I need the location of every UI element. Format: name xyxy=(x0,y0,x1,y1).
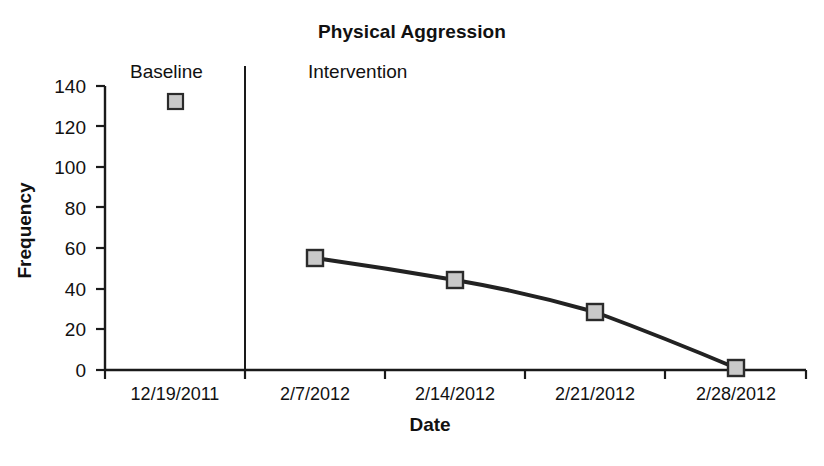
x-tick-label: 2/28/2012 xyxy=(656,385,816,403)
y-tick-label: 60 xyxy=(26,239,86,258)
data-point-marker-baseline xyxy=(168,94,183,109)
data-point-marker xyxy=(728,360,744,376)
y-tick-label: 20 xyxy=(26,320,86,339)
x-tick-marks xyxy=(105,370,806,379)
y-tick-label: 0 xyxy=(26,361,86,380)
x-tick-label: 2/7/2012 xyxy=(235,385,395,403)
phase-label-baseline: Baseline xyxy=(130,62,203,81)
x-tick-label: 2/21/2012 xyxy=(515,385,675,403)
y-tick-label: 40 xyxy=(26,280,86,299)
y-tick-label: 140 xyxy=(26,77,86,96)
intervention-series-line xyxy=(315,258,736,368)
x-tick-label: 12/19/2011 xyxy=(95,385,255,403)
chart-title: Physical Aggression xyxy=(0,22,824,41)
data-point-marker xyxy=(447,272,463,288)
y-tick-label: 80 xyxy=(26,199,86,218)
data-point-marker xyxy=(307,250,323,266)
phase-label-intervention: Intervention xyxy=(308,62,407,81)
y-tick-marks xyxy=(96,86,105,370)
chart-figure: Physical Aggression Frequency Date Basel… xyxy=(0,0,824,466)
y-tick-label: 100 xyxy=(26,158,86,177)
y-tick-label: 120 xyxy=(26,118,86,137)
x-tick-label: 2/14/2012 xyxy=(375,385,535,403)
x-axis-title: Date xyxy=(330,415,530,434)
data-point-marker xyxy=(587,304,603,320)
